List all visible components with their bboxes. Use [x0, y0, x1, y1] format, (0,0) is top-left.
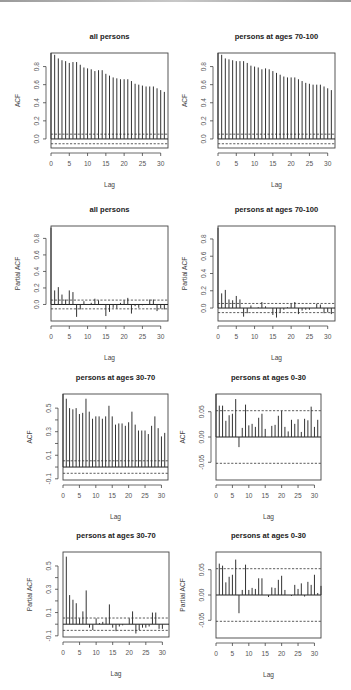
x-tick-label: 30 — [158, 492, 166, 499]
y-tick-label: 0.2 — [200, 286, 207, 295]
x-tick-label: 30 — [311, 492, 319, 499]
y-tick-label: 0.8 — [33, 233, 40, 242]
chart-title: persons at ages 30-70 — [76, 531, 155, 540]
y-tick-label: 0.4 — [200, 269, 207, 278]
y-tick-label: 0.3 — [45, 427, 52, 436]
x-tick-label: 20 — [278, 650, 286, 657]
y-tick-label: 0.8 — [200, 62, 207, 71]
x-tick-label: 25 — [294, 492, 302, 499]
x-tick-label: 25 — [139, 333, 147, 340]
x-tick-label: 0 — [61, 492, 65, 499]
x-tick-label: 15 — [109, 649, 117, 656]
plot-frame — [218, 226, 335, 321]
y-tick-label: 0.1 — [45, 608, 52, 617]
y-tick-label: 0.8 — [200, 234, 207, 243]
x-tick-label: 30 — [324, 333, 332, 340]
y-tick-label: 0.5 — [45, 561, 52, 570]
chart-panel-acf-1: all persons051015202530Lag0.00.20.40.60.… — [0, 0, 175, 172]
y-tick-label: 0.00 — [198, 430, 205, 443]
chart-panel-acf-6: persons at ages 0-30051015202530Lag-0.05… — [176, 345, 351, 517]
chart-title: persons at ages 70-100 — [235, 32, 319, 41]
y-tick-label: 0.5 — [45, 403, 52, 412]
x-tick-label: 5 — [234, 333, 238, 340]
chart-title: persons at ages 0-30 — [231, 531, 306, 540]
x-tick-label: 5 — [231, 650, 235, 657]
y-tick-label: 0.4 — [33, 267, 40, 276]
x-tick-label: 20 — [126, 649, 134, 656]
x-tick-label: 10 — [84, 160, 92, 167]
y-tick-label: 0.6 — [200, 80, 207, 89]
y-tick-label: -0.1 — [45, 630, 52, 642]
y-tick-label: 0.6 — [200, 251, 207, 260]
y-axis-label: ACF — [26, 430, 33, 443]
x-tick-label: 0 — [49, 333, 53, 340]
y-tick-label: -0.1 — [45, 473, 52, 485]
x-tick-label: 20 — [125, 492, 133, 499]
y-tick-label: 0.2 — [33, 116, 40, 125]
x-tick-label: 25 — [306, 160, 314, 167]
x-tick-label: 0 — [214, 492, 218, 499]
x-tick-label: 20 — [287, 333, 295, 340]
y-tick-label: 0.6 — [33, 250, 40, 259]
x-tick-label: 10 — [245, 650, 253, 657]
x-tick-label: 0 — [214, 650, 218, 657]
x-tick-label: 20 — [287, 160, 295, 167]
chart-title: all persons — [89, 32, 129, 41]
chart-title: persons at ages 30-70 — [76, 373, 155, 382]
x-tick-label: 10 — [84, 333, 92, 340]
x-tick-label: 15 — [269, 160, 277, 167]
y-axis-label: ACF — [14, 94, 21, 107]
x-tick-label: 30 — [311, 650, 319, 657]
x-tick-label: 30 — [159, 649, 167, 656]
x-tick-label: 25 — [141, 492, 149, 499]
x-tick-label: 15 — [102, 160, 110, 167]
x-tick-label: 15 — [102, 333, 110, 340]
y-tick-label: 0.05 — [198, 563, 205, 576]
x-tick-label: 0 — [216, 160, 220, 167]
x-tick-label: 5 — [67, 333, 71, 340]
y-tick-label: 0.3 — [45, 584, 52, 593]
y-tick-label: -0.05 — [198, 612, 205, 627]
x-tick-label: 10 — [251, 160, 259, 167]
chart-panel-acf-5: persons at ages 30-70051015202530Lag-0.1… — [0, 345, 175, 517]
chart-title: persons at ages 0-30 — [231, 373, 306, 382]
x-tick-label: 0 — [216, 333, 220, 340]
x-tick-label: 25 — [139, 160, 147, 167]
y-tick-label: 0.4 — [33, 98, 40, 107]
x-tick-label: 25 — [142, 649, 150, 656]
x-tick-label: 5 — [78, 492, 82, 499]
x-tick-label: 0 — [61, 649, 65, 656]
chart-panel-pacf-7: persons at ages 30-70051015202530Lag-0.1… — [0, 515, 175, 687]
y-tick-label: 0.2 — [200, 116, 207, 125]
chart-panel-acf-2: persons at ages 70-100051015202530Lag0.0… — [176, 0, 351, 172]
x-tick-label: 10 — [92, 649, 100, 656]
y-axis-label: ACF — [179, 430, 186, 443]
x-tick-label: 15 — [269, 333, 277, 340]
y-tick-label: 0.0 — [200, 303, 207, 312]
chart-panel-pacf-4: persons at ages 70-100051015202530Lag0.0… — [176, 175, 351, 347]
y-tick-label: 0.00 — [198, 588, 205, 601]
y-tick-label: 0.0 — [33, 300, 40, 309]
chart-panel-pacf-8: persons at ages 0-30051015202530Lag-0.05… — [176, 515, 351, 687]
x-tick-label: 10 — [92, 492, 100, 499]
x-tick-label: 15 — [262, 492, 270, 499]
y-axis-label: ACF — [181, 94, 188, 107]
y-tick-label: 0.6 — [33, 80, 40, 89]
x-tick-label: 10 — [245, 492, 253, 499]
x-tick-label: 5 — [234, 160, 238, 167]
x-tick-label: 0 — [49, 160, 53, 167]
y-tick-label: 0.4 — [200, 98, 207, 107]
chart-title: all persons — [89, 205, 129, 214]
y-tick-label: 0.2 — [33, 283, 40, 292]
x-axis-label: Lag — [263, 671, 274, 679]
x-tick-label: 25 — [306, 333, 314, 340]
x-tick-label: 5 — [67, 160, 71, 167]
y-tick-label: 0.1 — [45, 450, 52, 459]
x-tick-label: 20 — [120, 333, 128, 340]
y-axis-label: Partial ACF — [14, 257, 21, 290]
x-tick-label: 5 — [231, 492, 235, 499]
x-tick-label: 30 — [157, 160, 165, 167]
chart-title: persons at ages 70-100 — [235, 205, 319, 214]
y-axis-label: Partial ACF — [181, 257, 188, 290]
x-axis-label: Lag — [110, 670, 121, 678]
